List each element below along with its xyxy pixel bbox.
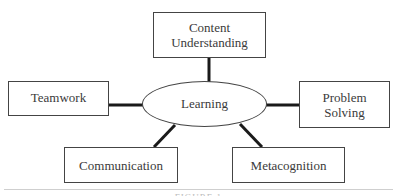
figure-caption: FIGURE 1 [0,192,397,196]
center-node-learning: Learning [142,81,267,127]
node-teamwork: Teamwork [8,81,109,116]
node-label-line2: Understanding [171,35,248,50]
node-label-line1: Content [171,20,248,35]
node-problem-solving: Problem Solving [299,81,390,128]
node-label: Communication [79,158,163,173]
node-label-line2: Solving [322,105,366,120]
node-label: Metacognition [251,158,327,173]
connector-communication [154,125,175,147]
node-content-understanding: Content Understanding [153,12,266,58]
connector-metacognition [240,124,262,147]
node-metacognition: Metacognition [232,147,345,183]
node-communication: Communication [64,147,178,183]
divider-rule [4,189,393,190]
node-label: Teamwork [31,90,86,105]
learning-concept-diagram: Content Understanding Teamwork Learning … [0,0,397,196]
center-label: Learning [181,96,228,112]
node-label-line1: Problem [322,90,366,105]
